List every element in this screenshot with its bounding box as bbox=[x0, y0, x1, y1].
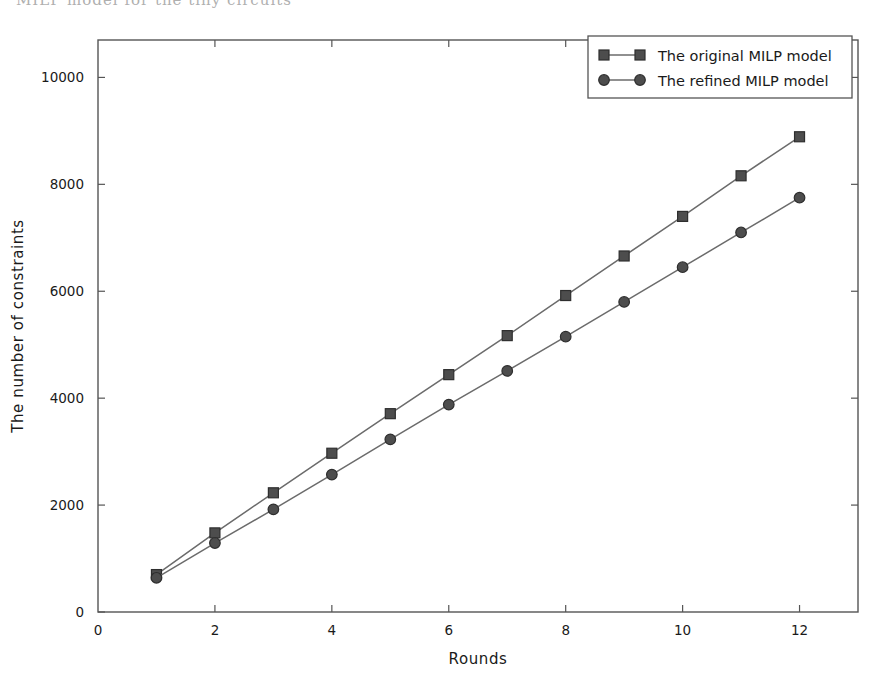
series-line bbox=[156, 198, 799, 578]
data-point-marker bbox=[794, 192, 805, 203]
y-tick-label: 2000 bbox=[0, 497, 84, 513]
data-point-marker bbox=[444, 370, 454, 380]
data-series-0 bbox=[151, 132, 804, 580]
data-series-layer bbox=[151, 132, 805, 583]
figure-page: MILP model for the tiny circuits The num… bbox=[0, 0, 891, 689]
plot-area: The original MILP modelThe refined MILP … bbox=[0, 0, 891, 689]
data-point-marker bbox=[619, 297, 630, 308]
legend-box bbox=[588, 36, 852, 98]
line-chart: The number of constraints Rounds The ori… bbox=[0, 0, 891, 689]
x-tick-label: 2 bbox=[211, 622, 220, 638]
x-tick-label: 0 bbox=[94, 622, 103, 638]
y-tick-label: 0 bbox=[0, 604, 84, 620]
data-point-marker bbox=[502, 331, 512, 341]
data-point-marker bbox=[210, 538, 221, 549]
axis-frame bbox=[98, 40, 858, 612]
data-point-marker bbox=[268, 504, 279, 515]
legend-label: The original MILP model bbox=[657, 48, 832, 64]
data-point-marker bbox=[619, 251, 629, 261]
legend-marker bbox=[635, 75, 646, 86]
data-point-marker bbox=[327, 448, 337, 458]
plot-frame bbox=[98, 40, 858, 612]
x-tick-label: 8 bbox=[561, 622, 570, 638]
data-point-marker bbox=[327, 469, 338, 480]
data-point-marker bbox=[385, 409, 395, 419]
series-line bbox=[156, 137, 799, 575]
data-series-1 bbox=[151, 192, 805, 583]
data-point-marker bbox=[443, 399, 454, 410]
y-tick-label: 6000 bbox=[0, 283, 84, 299]
chart-legend: The original MILP modelThe refined MILP … bbox=[588, 36, 852, 98]
data-point-marker bbox=[736, 171, 746, 181]
axis-ticks bbox=[98, 40, 858, 612]
data-point-marker bbox=[678, 211, 688, 221]
legend-marker bbox=[635, 50, 645, 60]
data-point-marker bbox=[677, 262, 688, 273]
data-point-marker bbox=[736, 227, 747, 238]
data-point-marker bbox=[268, 488, 278, 498]
y-tick-label: 4000 bbox=[0, 390, 84, 406]
x-tick-label: 12 bbox=[791, 622, 808, 638]
x-tick-label: 4 bbox=[328, 622, 337, 638]
data-point-marker bbox=[210, 528, 220, 538]
y-tick-label: 8000 bbox=[0, 176, 84, 192]
data-point-marker bbox=[560, 331, 571, 342]
x-tick-label: 10 bbox=[674, 622, 691, 638]
legend-marker bbox=[599, 75, 610, 86]
data-point-marker bbox=[151, 572, 162, 583]
legend-label: The refined MILP model bbox=[657, 73, 829, 89]
data-point-marker bbox=[795, 132, 805, 142]
y-tick-label: 10000 bbox=[0, 69, 84, 85]
data-point-marker bbox=[561, 291, 571, 301]
data-point-marker bbox=[502, 366, 513, 377]
legend-marker bbox=[599, 50, 609, 60]
data-point-marker bbox=[385, 434, 396, 445]
x-tick-label: 6 bbox=[444, 622, 453, 638]
